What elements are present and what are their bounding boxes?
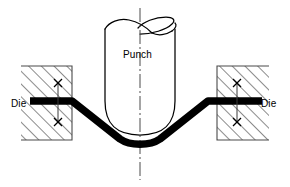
v-bending-diagram: Punch Die Die <box>0 0 290 187</box>
die-left-label: Die <box>11 98 26 109</box>
diagram-canvas <box>0 0 290 187</box>
die-right-label: Die <box>261 98 276 109</box>
punch-label: Punch <box>123 49 152 60</box>
